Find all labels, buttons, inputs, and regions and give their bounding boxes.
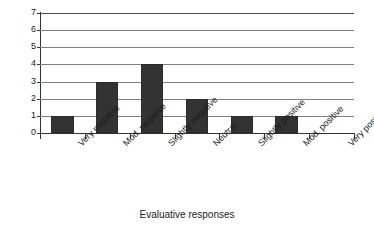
y-tick-label: 5	[0, 42, 36, 51]
y-tick-label: 3	[0, 77, 36, 86]
y-tick-label: 4	[0, 59, 36, 68]
y-tick-label: 7	[0, 8, 36, 17]
y-tick-label: 1	[0, 111, 36, 120]
bar-slot	[219, 13, 264, 133]
x-tick-mark	[40, 134, 41, 139]
x-axis-label: Very positive	[346, 141, 353, 148]
bar-slot	[40, 13, 85, 133]
bar-chart: 01234567 Very negativeMod. negativeSligh…	[0, 0, 374, 231]
y-tick-label: 6	[0, 25, 36, 34]
y-tick-label: 2	[0, 94, 36, 103]
bar	[51, 116, 73, 133]
x-axis-label: Slightly positive	[256, 141, 263, 148]
x-axis-label: Mod. negative	[121, 141, 128, 148]
x-axis-label: Slightly negative	[166, 141, 173, 148]
x-axis-label: Mod. positive	[301, 141, 308, 148]
x-axis-label: Neutral	[211, 141, 218, 148]
y-tick-label: 0	[0, 128, 36, 137]
x-axis-label: Very negative	[76, 141, 83, 148]
x-axis-title: Evaluative responses	[0, 209, 374, 221]
